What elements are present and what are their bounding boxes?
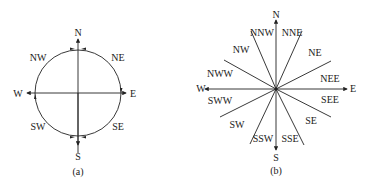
label-n: N — [272, 9, 279, 20]
arc-arrowhead-icon — [70, 136, 75, 139]
label-sw: SW — [230, 119, 246, 130]
label-ne: NE — [111, 52, 124, 63]
label-e: E — [130, 88, 136, 99]
label-nw: NW — [233, 44, 250, 55]
arc-arrowhead-icon — [70, 48, 75, 51]
caption-b: (b) — [270, 165, 282, 177]
label-ssw: SSW — [253, 133, 274, 144]
center-dot — [274, 87, 277, 90]
label-s: S — [273, 152, 279, 163]
label-nee: NEE — [320, 73, 339, 84]
label-s: S — [75, 151, 81, 162]
label-w: W — [196, 83, 206, 94]
label-see: SEE — [321, 94, 339, 105]
label-sw: SW — [31, 121, 47, 132]
divider-line-nnw — [251, 31, 276, 89]
label-n: N — [74, 27, 81, 38]
figure-a-circle-compass: N S E W NW NE SW SE (a) — [13, 27, 136, 178]
label-nnw: NNW — [250, 27, 274, 38]
arc-arrowhead-icon — [81, 136, 86, 139]
label-ne: NE — [308, 47, 321, 58]
label-se: SE — [112, 121, 124, 132]
label-sse: SSE — [281, 133, 298, 144]
arc-arrowhead-icon — [81, 48, 86, 51]
compass-diagrams: N S E W NW NE SW SE (a) N S E W NNW NNE … — [0, 0, 365, 188]
label-e: E — [350, 83, 356, 94]
divider-line-nne — [276, 31, 302, 89]
label-nne: NNE — [282, 27, 303, 38]
figure-b-16-point-compass: N S E W NNW NNE NW NE NWW NEE SWW SEE SW… — [196, 9, 356, 177]
label-nw: NW — [30, 52, 47, 63]
label-sww: SWW — [208, 95, 233, 106]
label-nww: NWW — [207, 68, 234, 79]
label-se: SE — [305, 115, 317, 126]
caption-a: (a) — [72, 166, 83, 178]
label-w: W — [13, 88, 23, 99]
